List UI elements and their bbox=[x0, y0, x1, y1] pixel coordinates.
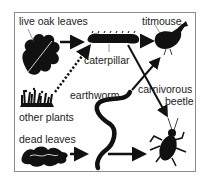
label-beetle: beetle bbox=[165, 96, 194, 107]
label-other-plants: other plants bbox=[19, 112, 74, 123]
label-caterpillar: caterpillar bbox=[84, 55, 130, 66]
earthworm-icon bbox=[97, 92, 130, 168]
carnivorous-beetle-icon bbox=[150, 118, 186, 166]
label-dead-leaves: dead leaves bbox=[19, 134, 76, 145]
label-titmouse: titmouse bbox=[142, 16, 182, 27]
other-plants-grass-icon bbox=[20, 88, 54, 107]
dead-leaves-icon bbox=[21, 147, 67, 167]
label-carnivorous: carnivorous bbox=[138, 84, 192, 95]
label-live-oak-leaves: live oak leaves bbox=[19, 16, 88, 27]
caterpillar-icon bbox=[87, 31, 139, 52]
oak-leaf-icon bbox=[22, 29, 59, 75]
label-earthworm: earthworm bbox=[70, 90, 120, 101]
